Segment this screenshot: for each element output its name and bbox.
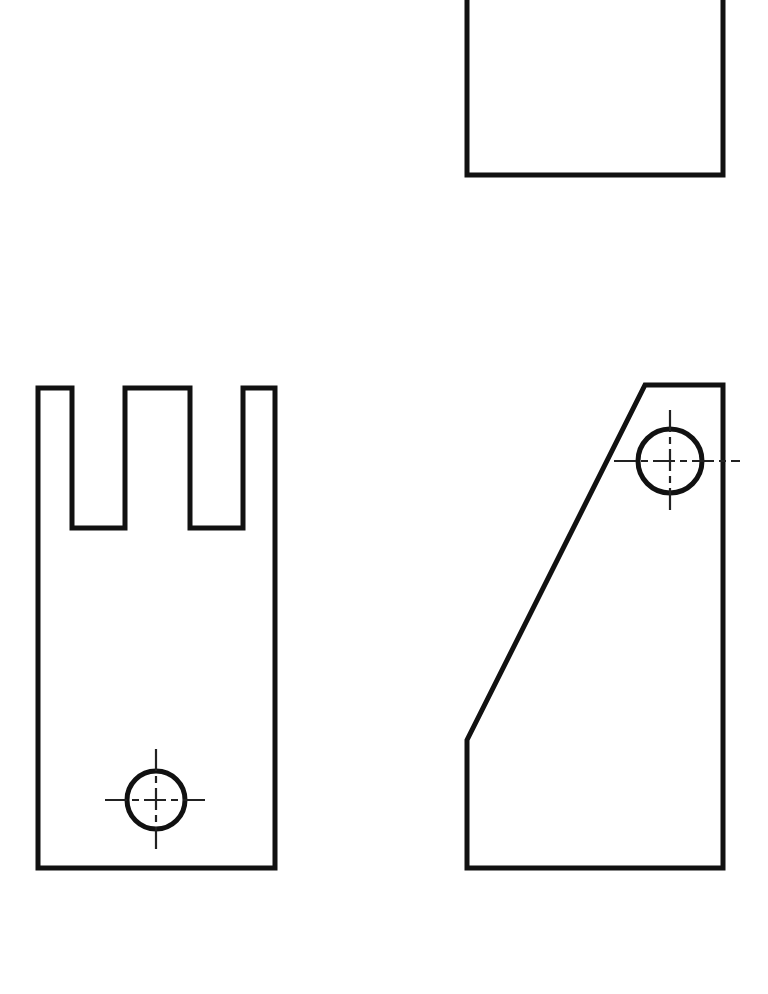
view-side (467, 385, 740, 868)
side-view-outline (467, 385, 723, 868)
top-view-outline (467, 0, 723, 175)
view-top (467, 0, 723, 175)
drawing-sheet (0, 0, 768, 994)
drawing-canvas (0, 0, 768, 994)
view-front (38, 388, 275, 868)
